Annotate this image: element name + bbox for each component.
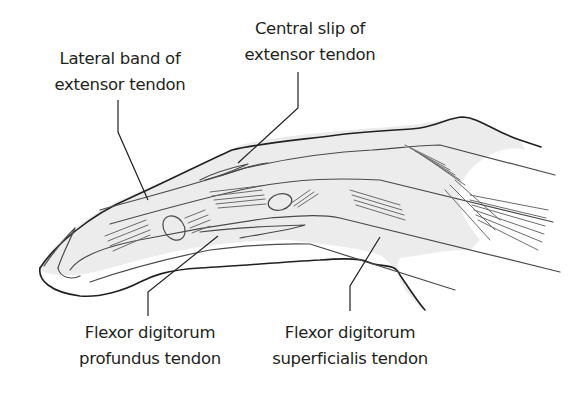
label-central-slip-line1: Central slip of [220,16,400,42]
label-fdp-line2: profundus tendon [60,346,240,372]
label-fds: Flexor digitorum superficialis tendon [260,320,440,372]
leader-lateral-band [118,100,148,200]
label-fds-line2: superficialis tendon [260,346,440,372]
label-fds-line1: Flexor digitorum [260,320,440,346]
label-fdp: Flexor digitorum profundus tendon [60,320,240,372]
label-lateral-band-line2: extensor tendon [30,72,210,98]
label-central-slip: Central slip of extensor tendon [220,16,400,68]
label-lateral-band: Lateral band of extensor tendon [30,46,210,98]
label-lateral-band-line1: Lateral band of [30,46,210,72]
label-central-slip-line2: extensor tendon [220,42,400,68]
label-fdp-line1: Flexor digitorum [60,320,240,346]
